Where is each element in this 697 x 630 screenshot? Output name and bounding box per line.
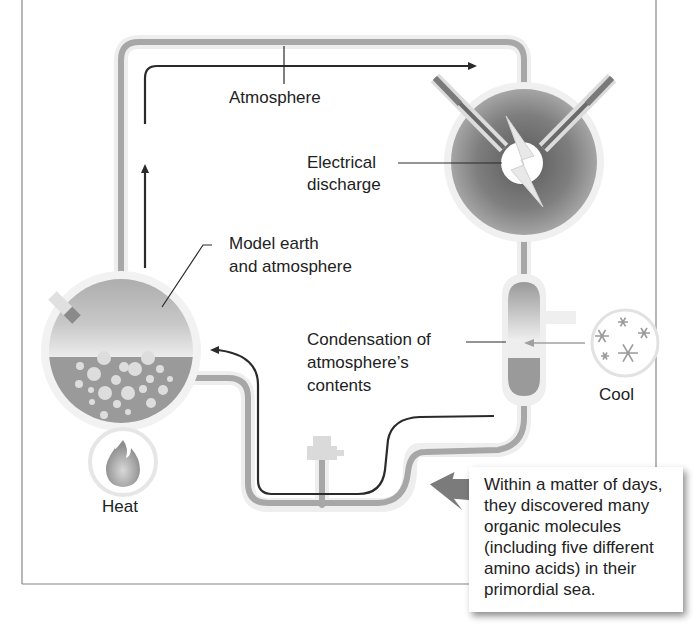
label-electrical-discharge-2: discharge <box>307 175 381 195</box>
label-condensation-2: atmosphere’s <box>307 353 409 373</box>
label-atmosphere: Atmosphere <box>229 88 321 108</box>
miller-urey-diagram: Atmosphere Electrical discharge Model ea… <box>0 0 697 630</box>
label-cool: Cool <box>599 385 634 405</box>
condensed-liquid <box>508 358 540 396</box>
callout-line-5: amino acids) in their <box>484 558 683 579</box>
label-model-earth-2: and atmosphere <box>229 257 352 277</box>
callout-line-2: they discovered many <box>484 495 683 516</box>
callout-line-6: primordial sea. <box>484 579 683 600</box>
label-condensation-1: Condensation of <box>307 330 431 350</box>
condenser-top <box>508 282 540 340</box>
flow-arrows <box>145 66 494 494</box>
cooling-inlet <box>546 311 576 324</box>
findings-callout: Within a matter of days, they discovered… <box>469 467 683 612</box>
callout-line-4: (including five different <box>484 537 683 558</box>
label-electrical-discharge-1: Electrical <box>307 153 376 173</box>
callout-line-3: organic molecules <box>484 516 683 537</box>
label-condensation-3: contents <box>307 376 371 396</box>
callout-line-1: Within a matter of days, <box>484 474 683 495</box>
label-heat: Heat <box>102 497 138 517</box>
stopcock-valve <box>307 436 344 460</box>
label-model-earth-1: Model earth <box>229 234 319 254</box>
